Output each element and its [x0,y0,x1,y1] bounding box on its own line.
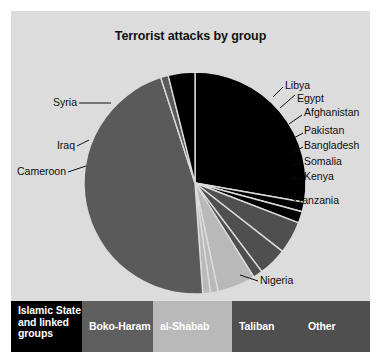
label-bangladesh: Bangladesh [304,140,359,151]
legend-item-boko-haram[interactable]: Boko-Haram [82,301,153,352]
label-nigeria: Nigeria [260,275,293,286]
leader-afghanistan [289,115,302,124]
legend-label-al-shabab: al-Shabab [160,321,209,333]
leader-afghan-top [280,95,295,108]
legend-label-boko-haram: Boko-Haram [89,321,150,333]
pie-slice-syria[interactable] [195,72,306,202]
legend-label-islamic-state: Islamic State and linked groups [18,305,82,340]
label-cameroon: Cameroon [11,166,66,177]
leader-libya [273,87,283,97]
label-iraq: Iraq [11,140,75,151]
legend-label-taliban: Taliban [239,321,274,333]
label-kenya: Kenya [304,171,334,182]
label-libya: Libya [285,80,310,91]
label-afghanistan: Afghanistan [304,107,359,118]
chart-legend: Islamic State and linked groups Boko-Har… [11,301,370,352]
legend-item-other[interactable]: Other [301,301,370,352]
screenshot-root: Terrorist attacks by group [0,0,381,363]
leader-iraq [77,140,89,146]
legend-item-taliban[interactable]: Taliban [232,301,301,352]
legend-item-islamic-state[interactable]: Islamic State and linked groups [11,301,82,352]
label-somalia: Somalia [304,156,342,167]
legend-label-other: Other [308,321,336,333]
label-pakistan: Pakistan [304,125,344,136]
label-tanzania: Tanzania [297,195,339,206]
label-syria: Syria [11,97,77,108]
pie-chart-area: Syria Iraq Cameroon Libya Egypt Afghanis… [11,11,370,299]
pie-slices [84,72,306,294]
legend-item-al-shabab[interactable]: al-Shabab [153,301,232,352]
leader-cameroon [68,166,86,172]
label-egypt: Egypt [297,93,324,104]
